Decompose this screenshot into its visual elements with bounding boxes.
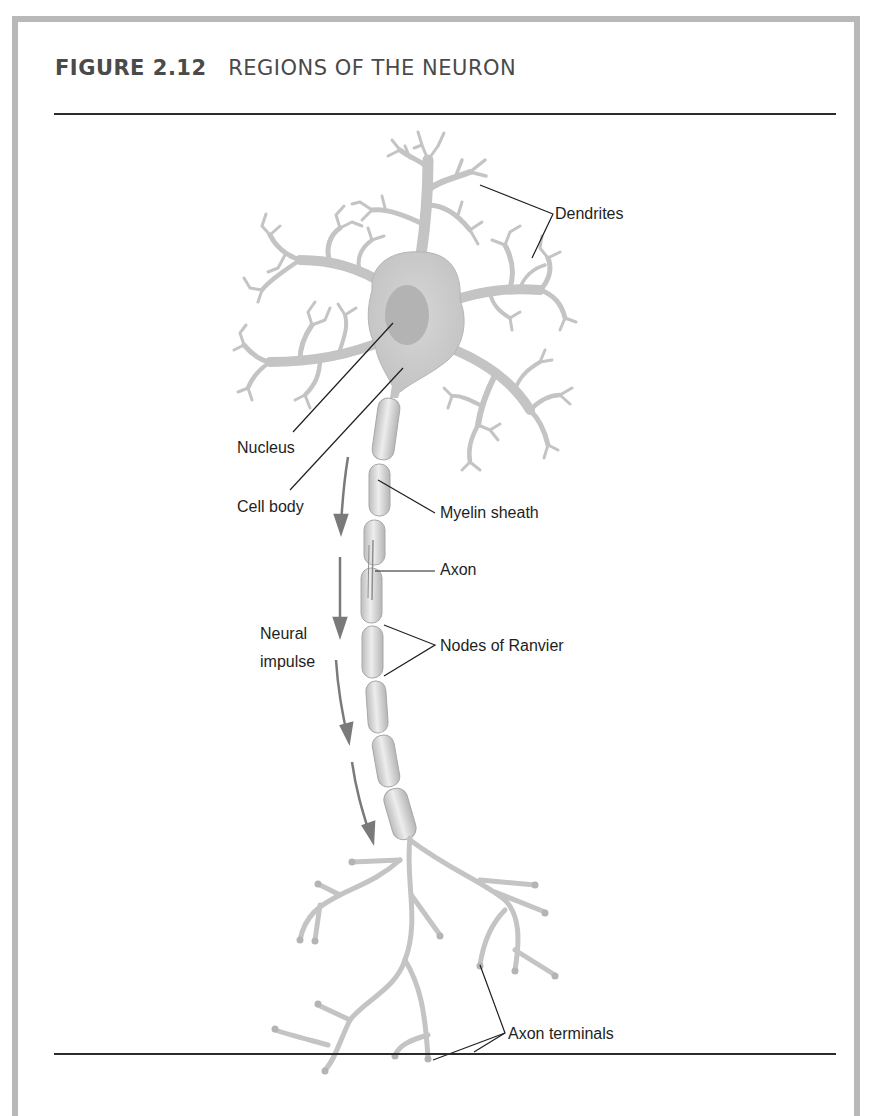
label-cell-body: Cell body — [237, 497, 304, 517]
nucleus — [385, 285, 429, 345]
label-axon: Axon — [440, 560, 476, 580]
label-nucleus: Nucleus — [237, 438, 295, 458]
label-neural-impulse-line2: impulse — [260, 652, 315, 672]
label-neural-impulse-line1: Neural — [260, 624, 307, 644]
label-nodes-of-ranvier: Nodes of Ranvier — [440, 636, 564, 656]
label-myelin-sheath: Myelin sheath — [440, 503, 539, 523]
myelin-segments — [361, 397, 419, 843]
label-axon-terminals: Axon terminals — [508, 1024, 614, 1044]
bottom-rule — [54, 1053, 836, 1055]
label-dendrites: Dendrites — [555, 204, 623, 224]
axon-core — [372, 540, 373, 600]
